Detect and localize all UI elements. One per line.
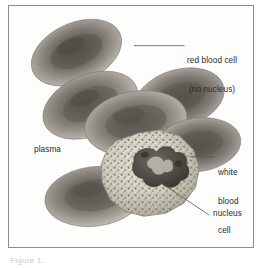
figure-caption: Figure 1. [10,256,260,267]
label-red-blood-cell: red blood cell (no nucleus) [187,37,237,114]
label-red-blood-cell-line1: red blood cell [187,56,237,66]
label-white-blood-cell-line2: blood [218,197,239,207]
label-white-blood-cell-line1: white [218,168,239,178]
label-plasma: plasma [34,145,61,155]
label-red-blood-cell-line2: (no nucleus) [187,85,237,95]
blood-cell-figure: red blood cell (no nucleus) plasma white… [0,0,270,268]
figure-frame: red blood cell (no nucleus) plasma white… [8,5,254,248]
label-white-blood-cell: white blood cell [218,149,239,248]
label-nucleus: nucleus [213,209,242,219]
label-white-blood-cell-line3: cell [218,226,239,236]
